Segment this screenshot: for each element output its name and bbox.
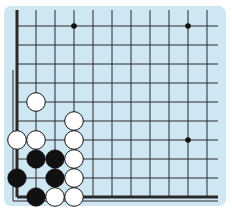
star-point <box>185 137 191 143</box>
star-point <box>185 23 191 29</box>
white-stone[interactable] <box>65 112 84 131</box>
white-stone[interactable] <box>65 131 84 150</box>
black-stone[interactable] <box>27 150 46 169</box>
black-stone[interactable] <box>46 150 65 169</box>
go-board[interactable] <box>0 0 232 220</box>
white-stone[interactable] <box>65 188 84 207</box>
white-stone[interactable] <box>65 169 84 188</box>
white-stone[interactable] <box>8 131 27 150</box>
black-stone[interactable] <box>27 188 46 207</box>
white-stone[interactable] <box>46 188 65 207</box>
black-stone[interactable] <box>8 169 27 188</box>
stones-layer <box>8 93 84 207</box>
black-stone[interactable] <box>46 169 65 188</box>
white-stone[interactable] <box>27 131 46 150</box>
white-stone[interactable] <box>65 150 84 169</box>
white-stone[interactable] <box>27 93 46 112</box>
star-point <box>71 23 77 29</box>
